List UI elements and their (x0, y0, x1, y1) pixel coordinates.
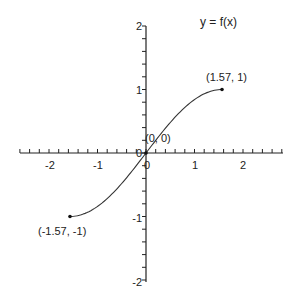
chart-title: y = f(x) (200, 15, 237, 29)
y-tick-label: 1 (136, 84, 142, 96)
y-tick-label: 0 (136, 147, 142, 159)
annotation-max-point: (1.57, 1) (206, 71, 247, 83)
x-tick-label: 1 (192, 159, 198, 171)
x-axis (20, 149, 283, 153)
endpoint-marker-min (68, 215, 72, 219)
annotation-min-point: (-1.57, -1) (38, 225, 86, 237)
endpoint-marker-max (220, 88, 224, 92)
x-tick-label: 2 (240, 159, 246, 171)
y-tick-label: -2 (132, 276, 142, 288)
y-tick-label: -1 (132, 212, 142, 224)
annotation-origin: (0, 0) (145, 132, 171, 144)
function-plot: -2 -1 0 1 2 -2 -1 0 1 2 (1.57, 1) (0, 0)… (0, 0, 298, 306)
origin-marker (144, 151, 148, 155)
y-tick-label: 2 (136, 20, 142, 32)
x-tick-label: -2 (45, 159, 55, 171)
x-tick-label: 0 (144, 159, 150, 171)
x-tick-label: -1 (93, 159, 103, 171)
